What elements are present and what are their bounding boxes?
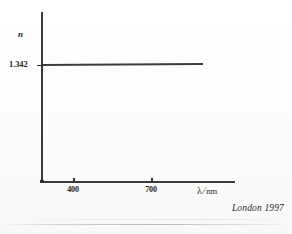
x-axis-tick-mark-700 xyxy=(151,178,153,184)
y-axis-title: n xyxy=(18,29,23,39)
figure-canvas: 1.342 n 400 700 λ/nm London 1997 xyxy=(0,0,292,234)
x-axis-tick-label-700: 700 xyxy=(138,185,164,194)
data-series-refractive-index xyxy=(41,63,203,65)
axis-origin-corner xyxy=(40,180,43,183)
source-attribution: London 1997 xyxy=(232,203,284,213)
x-axis-title-unit: nm xyxy=(206,186,217,196)
x-axis-line xyxy=(41,181,235,183)
x-axis-title: λ/nm xyxy=(197,185,217,196)
x-axis-tick-mark-400 xyxy=(73,178,75,184)
y-axis-tick-mark xyxy=(37,65,45,67)
y-axis-tick-label: 1.342 xyxy=(9,59,28,69)
plot-area: 1.342 n 400 700 λ/nm xyxy=(0,0,292,234)
x-axis-tick-label-400: 400 xyxy=(60,185,86,194)
y-axis-line xyxy=(41,12,43,183)
